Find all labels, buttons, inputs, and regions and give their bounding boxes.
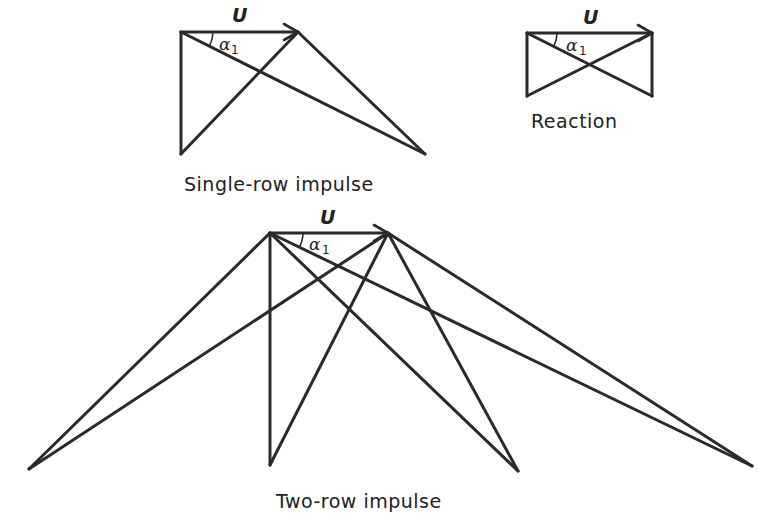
velocity-label-u: U bbox=[320, 206, 336, 228]
angle-arc-icon bbox=[299, 233, 303, 248]
angle-label-subscript: 1 bbox=[231, 43, 239, 57]
line-origin-to-far-left bbox=[29, 233, 270, 469]
single-row-caption: Single-row impulse bbox=[184, 173, 374, 195]
reaction-diagram: U α 1 Reaction bbox=[527, 6, 652, 132]
angle-arc-icon bbox=[210, 32, 214, 46]
angle-label-alpha: α bbox=[309, 234, 321, 254]
line-tip-to-mid-right bbox=[388, 233, 518, 471]
angle-arc-icon bbox=[554, 33, 557, 46]
angle-label-alpha: α bbox=[219, 34, 231, 54]
velocity-triangle-diagrams: U α 1 Single-row impulse U α 1 Reaction … bbox=[0, 0, 770, 530]
single-row-impulse-diagram: U α 1 Single-row impulse bbox=[181, 4, 425, 195]
two-row-caption: Two-row impulse bbox=[275, 490, 442, 512]
angle-label-alpha: α bbox=[566, 35, 578, 55]
velocity-label-u: U bbox=[583, 6, 599, 28]
reaction-caption: Reaction bbox=[531, 110, 618, 132]
line-tip-to-axial-bottom bbox=[270, 233, 388, 465]
velocity-label-u: U bbox=[232, 4, 248, 26]
line-tip-to-far-left bbox=[29, 233, 388, 469]
inlet-velocity-absolute bbox=[181, 32, 425, 154]
line-origin-to-mid-right bbox=[270, 233, 518, 471]
line-origin-to-far-right bbox=[270, 233, 752, 466]
line-tip-to-far-right bbox=[388, 233, 752, 466]
relative-velocity bbox=[298, 32, 425, 154]
exit-velocity-absolute bbox=[181, 32, 298, 154]
angle-label-subscript: 1 bbox=[579, 44, 587, 58]
two-row-impulse-diagram: U α 1 Two-row impulse bbox=[29, 206, 752, 512]
angle-label-subscript: 1 bbox=[322, 243, 330, 257]
